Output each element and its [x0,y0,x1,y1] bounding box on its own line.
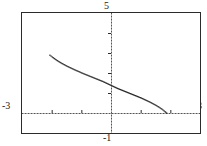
graph-screenshot: 5 -1 -3 3 [0,0,207,146]
x-axis-tick [52,110,53,113]
window-xmin-label: -3 [2,101,10,111]
curve-curve [49,55,167,114]
window-ymin-label: -1 [103,133,111,143]
y-axis-tick [108,73,111,74]
window-ymax-label: 5 [104,1,109,11]
y-axis-tick [108,33,111,34]
plot-frame [21,12,201,134]
y-axis-tick [108,53,111,54]
plot-canvas [22,13,200,133]
x-axis-tick [81,110,82,113]
x-axis-tick [141,110,142,113]
y-axis-line [111,13,112,133]
curve-layer [49,55,167,114]
x-axis-tick [170,110,171,113]
x-axis-line [22,113,200,114]
y-axis-tick [108,93,111,94]
